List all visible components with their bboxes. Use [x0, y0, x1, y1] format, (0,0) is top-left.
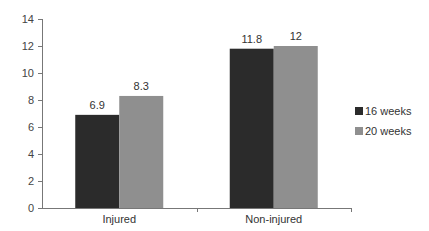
x-category-label: Non-injured	[214, 213, 334, 225]
legend-swatch-icon	[355, 107, 363, 115]
bar-non-injured-16-weeks	[230, 49, 274, 208]
bar-injured-16-weeks	[75, 115, 119, 208]
legend: 16 weeks20 weeks	[355, 101, 411, 141]
x-category-label: Injured	[59, 213, 179, 225]
y-tick-label: 6	[14, 121, 34, 133]
y-tick-label: 10	[14, 67, 34, 79]
legend-label: 20 weeks	[365, 125, 411, 137]
legend-swatch-icon	[355, 127, 363, 135]
value-label: 8.3	[119, 80, 163, 92]
y-tick-label: 14	[14, 13, 34, 25]
y-tick-label: 12	[14, 40, 34, 52]
legend-item: 20 weeks	[355, 121, 411, 141]
bar-injured-20-weeks	[119, 96, 163, 208]
bar-chart: 024681012146.98.3Injured11.812Non-injure…	[0, 0, 429, 231]
y-tick-label: 4	[14, 148, 34, 160]
y-tick-label: 8	[14, 94, 34, 106]
bars	[75, 46, 318, 208]
bar-non-injured-20-weeks	[274, 46, 318, 208]
y-tick-label: 0	[14, 202, 34, 214]
y-tick-label: 2	[14, 175, 34, 187]
value-label: 11.8	[230, 33, 274, 45]
value-label: 12	[274, 30, 318, 42]
value-label: 6.9	[75, 99, 119, 111]
legend-item: 16 weeks	[355, 101, 411, 121]
legend-label: 16 weeks	[365, 105, 411, 117]
